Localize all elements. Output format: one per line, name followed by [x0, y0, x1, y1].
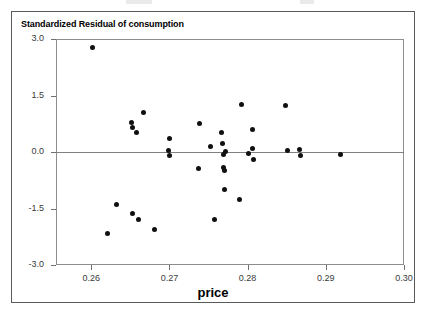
x-axis-tick-mark — [169, 265, 170, 270]
y-axis-tick-mark — [51, 96, 56, 97]
x-axis-tick-label: 0.28 — [228, 273, 268, 283]
x-axis-tick-label: 0.29 — [306, 273, 346, 283]
y-axis-tick-label: -1.5 — [14, 203, 44, 213]
plot-area — [56, 39, 404, 265]
zero-reference-line — [56, 152, 404, 153]
data-point — [239, 102, 244, 107]
y-axis-tick-label: 0.0 — [14, 146, 44, 156]
chart-title: Standardized Residual of consumption — [21, 19, 184, 29]
data-point — [297, 147, 302, 152]
y-axis-tick-mark — [51, 209, 56, 210]
y-axis-tick-mark — [51, 265, 56, 266]
data-point — [237, 197, 242, 202]
data-point — [208, 144, 213, 149]
x-axis-tick-mark — [91, 265, 92, 270]
y-axis-tick-label: -3.0 — [14, 259, 44, 269]
data-point — [130, 211, 135, 216]
x-axis-tick-mark — [326, 265, 327, 270]
data-point — [223, 149, 228, 154]
data-point — [283, 103, 288, 108]
data-point — [134, 130, 139, 135]
top-edge-artifact-left — [126, 0, 152, 4]
data-point — [220, 141, 225, 146]
data-point — [129, 120, 134, 125]
data-point — [90, 45, 95, 50]
x-axis-tick-mark — [404, 265, 405, 270]
y-axis-tick-mark — [51, 152, 56, 153]
data-point — [250, 146, 255, 151]
data-point — [246, 151, 251, 156]
x-axis-tick-label: 0.30 — [384, 273, 424, 283]
x-axis-tick-label: 0.26 — [71, 273, 111, 283]
data-point — [196, 166, 201, 171]
data-point — [167, 153, 172, 158]
data-point — [219, 130, 224, 135]
data-point — [285, 148, 290, 153]
data-point — [338, 152, 343, 157]
x-axis-tick-label: 0.27 — [149, 273, 189, 283]
y-axis-tick-label: 3.0 — [14, 33, 44, 43]
data-point — [197, 121, 202, 126]
data-point — [141, 110, 146, 115]
data-point — [222, 187, 227, 192]
data-point — [222, 168, 227, 173]
data-point — [251, 157, 256, 162]
x-axis-tick-mark — [248, 265, 249, 270]
x-axis-title: price — [0, 285, 426, 300]
y-axis-tick-mark — [51, 39, 56, 40]
data-point — [298, 153, 303, 158]
data-point — [114, 202, 119, 207]
y-axis-tick-label: 1.5 — [14, 90, 44, 100]
data-point — [212, 217, 217, 222]
data-point — [136, 217, 141, 222]
data-point — [105, 231, 110, 236]
data-point — [250, 127, 255, 132]
data-point — [167, 136, 172, 141]
data-point — [130, 125, 135, 130]
residual-plot-figure: Standardized Residual of consumption pri… — [0, 0, 426, 320]
top-edge-artifact-right — [300, 0, 314, 4]
data-point — [152, 227, 157, 232]
